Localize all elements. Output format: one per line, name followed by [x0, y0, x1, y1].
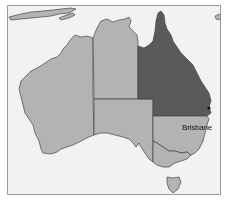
brisbane-label: Brisbane [182, 123, 212, 132]
pacific-islands [215, 14, 221, 20]
region-northern-territory[interactable] [93, 17, 138, 99]
map-frame: Brisbane [7, 5, 221, 195]
region-tasmania[interactable] [167, 177, 181, 193]
brisbane-marker-dot[interactable] [207, 106, 210, 109]
australia-map [8, 6, 221, 195]
region-south-australia[interactable] [94, 99, 153, 162]
region-western-australia[interactable] [19, 35, 94, 154]
